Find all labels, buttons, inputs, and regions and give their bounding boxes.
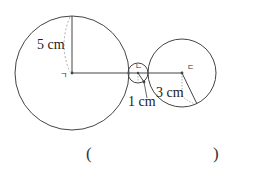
- medium-radius-line: [182, 73, 197, 104]
- small-radius-line: [138, 73, 144, 82]
- big-radius-label: 5 cm: [37, 37, 65, 52]
- small-center-label: ㄴ: [135, 62, 142, 71]
- medium-center-label: ㄷ: [187, 63, 194, 72]
- big-center-label: ㄱ: [60, 71, 67, 80]
- big-center-dot: [71, 72, 74, 75]
- small-edge-dot: [143, 81, 146, 84]
- big-radius-dashed-arc: [64, 17, 70, 72]
- medium-radius-label: 3 cm: [156, 85, 184, 100]
- answer-open-paren: (: [86, 144, 92, 164]
- medium-center-dot: [181, 72, 184, 75]
- answer-close-paren: ): [213, 144, 219, 164]
- answer-blank[interactable]: [100, 146, 210, 164]
- small-radius-label: 1 cm: [128, 94, 156, 109]
- small-center-dot: [137, 72, 139, 74]
